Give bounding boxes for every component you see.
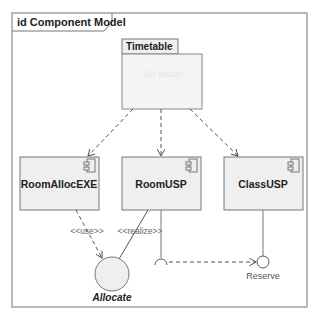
interface-reserve[interactable] [257,256,269,268]
frame-title: id Component Model [17,16,126,28]
component-roomallocexe[interactable]: RoomAllocEXE [20,157,99,210]
interface-allocate-label: Allocate [92,292,132,303]
interface-reserve-label: Reserve [246,271,280,281]
interface-allocate[interactable] [95,257,129,291]
component-diagram: id Component Model Timetable Tab Model R… [0,0,319,319]
stereotype-realize: <<realize>> [118,226,163,236]
component-classusp[interactable]: ClassUSP [224,157,303,210]
stereotype-use: <<use>> [70,226,104,236]
component-roomusp[interactable]: RoomUSP [122,157,201,210]
package-name: Timetable [126,41,173,52]
component-name: RoomUSP [135,178,186,190]
component-name: RoomAllocEXE [21,178,97,190]
component-name: ClassUSP [238,178,288,190]
package-faded-text: Tab Model [141,69,183,79]
package-timetable[interactable] [122,54,202,109]
